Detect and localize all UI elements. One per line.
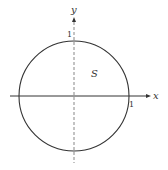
- y-axis-label: y: [70, 4, 77, 15]
- x-tick-label: 1: [129, 100, 134, 109]
- x-axis-arrow-icon: [146, 94, 151, 98]
- unit-circle-diagram: y x 1 1 S: [0, 0, 168, 170]
- y-axis-arrow-icon: [72, 17, 76, 22]
- x-axis-label: x: [153, 90, 159, 101]
- y-tick-label: 1: [67, 30, 72, 39]
- region-label: S: [91, 68, 98, 79]
